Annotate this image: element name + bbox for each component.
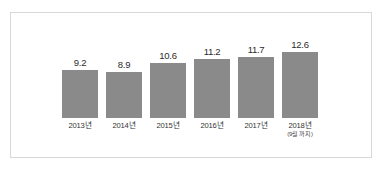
bar-category-label: 2018년 (274, 121, 326, 130)
bar-rect (150, 63, 186, 118)
bar-rect (62, 70, 98, 118)
bar-value-label: 11.7 (234, 45, 278, 55)
bar-value-label: 8.9 (102, 60, 146, 70)
bar-group: 12.62018년(9월 까지) (278, 0, 322, 170)
bar-group: 11.22016년 (190, 0, 234, 170)
bar-group: 8.92014년 (102, 0, 146, 170)
bar-value-label: 9.2 (58, 58, 102, 68)
bar-category-sublabel: (9월 까지) (274, 131, 326, 138)
bar-rect (194, 59, 230, 118)
chart-container: 9.22013년8.92014년10.62015년11.22016년11.720… (0, 0, 382, 170)
bar-rect (282, 52, 318, 118)
bar-value-label: 10.6 (146, 51, 190, 61)
bar-value-label: 12.6 (278, 40, 322, 50)
bar-group: 10.62015년 (146, 0, 190, 170)
bar-rect (106, 72, 142, 118)
bar-rect (238, 57, 274, 118)
bar-group: 9.22013년 (58, 0, 102, 170)
bar-value-label: 11.2 (190, 47, 234, 57)
bar-group: 11.72017년 (234, 0, 278, 170)
bar-chart-plot-area: 9.22013년8.92014년10.62015년11.22016년11.720… (0, 0, 382, 170)
